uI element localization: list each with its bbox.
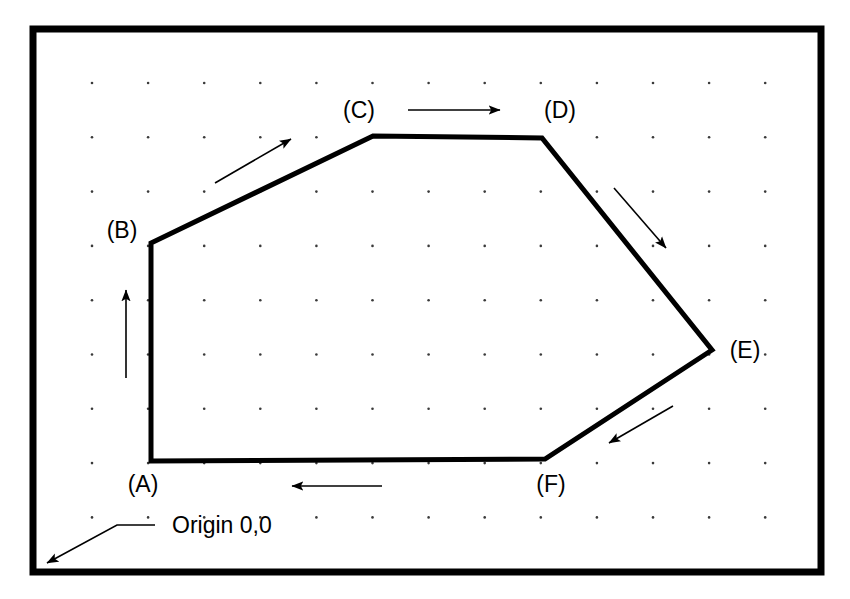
grid-dot — [483, 190, 486, 193]
grid-dot — [540, 516, 543, 519]
grid-dot — [596, 299, 599, 302]
grid-dot — [764, 462, 767, 465]
grid-dot — [764, 353, 767, 356]
grid-dot — [764, 408, 767, 411]
grid-dot — [540, 190, 543, 193]
grid-dot — [259, 299, 262, 302]
grid-dot — [91, 462, 94, 465]
diagram-canvas: (A)(B)(C)(D)(E)(F) Origin 0,0 — [0, 0, 850, 599]
grid-dot — [203, 299, 206, 302]
grid-dot — [764, 516, 767, 519]
grid-dot — [203, 136, 206, 139]
vertex-label-d: (D) — [544, 97, 576, 123]
grid-dot — [483, 516, 486, 519]
grid-dot — [764, 299, 767, 302]
grid-dot — [596, 353, 599, 356]
grid-dot — [764, 136, 767, 139]
grid-dot — [483, 462, 486, 465]
grid-dot — [203, 353, 206, 356]
grid-dot — [259, 245, 262, 248]
grid-dot — [427, 516, 430, 519]
grid-dot — [596, 408, 599, 411]
grid-dot — [596, 516, 599, 519]
grid-dot — [708, 245, 711, 248]
vertex-label-c: (C) — [343, 97, 375, 123]
grid-dot — [483, 408, 486, 411]
grid-dot — [708, 82, 711, 85]
grid-dot — [540, 462, 543, 465]
grid-dot — [203, 245, 206, 248]
grid-dot — [91, 353, 94, 356]
grid-dot — [203, 82, 206, 85]
grid-dot — [147, 516, 150, 519]
grid-dot — [708, 516, 711, 519]
grid-dot — [259, 82, 262, 85]
grid-dot — [596, 136, 599, 139]
grid-dot — [540, 299, 543, 302]
grid-dot — [596, 82, 599, 85]
grid-dot — [483, 245, 486, 248]
grid-dot — [91, 190, 94, 193]
polygon-path-diagram: (A)(B)(C)(D)(E)(F) Origin 0,0 — [0, 0, 850, 599]
vertex-label-b: (B) — [107, 217, 138, 243]
grid-dot — [147, 136, 150, 139]
grid-dot — [371, 82, 374, 85]
grid-dot — [427, 190, 430, 193]
grid-dot — [764, 245, 767, 248]
grid-dot — [371, 353, 374, 356]
canvas-background — [0, 0, 850, 599]
grid-dot — [652, 299, 655, 302]
grid-dot — [483, 82, 486, 85]
grid-dot — [91, 299, 94, 302]
grid-dot — [427, 462, 430, 465]
grid-dot — [315, 190, 318, 193]
grid-dot — [483, 299, 486, 302]
grid-dot — [427, 408, 430, 411]
grid-dot — [764, 82, 767, 85]
grid-dot — [315, 516, 318, 519]
grid-dot — [764, 190, 767, 193]
grid-dot — [371, 408, 374, 411]
grid-dot — [708, 190, 711, 193]
grid-dot — [708, 462, 711, 465]
grid-dot — [259, 353, 262, 356]
grid-dot — [540, 82, 543, 85]
grid-dot — [315, 136, 318, 139]
grid-dot — [427, 245, 430, 248]
grid-dot — [427, 299, 430, 302]
grid-dot — [91, 136, 94, 139]
grid-dot — [371, 299, 374, 302]
grid-dot — [652, 136, 655, 139]
grid-dot — [540, 408, 543, 411]
grid-dot — [540, 245, 543, 248]
grid-dot — [259, 408, 262, 411]
grid-dot — [652, 190, 655, 193]
grid-dot — [652, 408, 655, 411]
grid-dot — [483, 353, 486, 356]
grid-dot — [371, 245, 374, 248]
grid-dot — [427, 353, 430, 356]
vertex-label-a: (A) — [128, 471, 159, 497]
vertex-label-e: (E) — [730, 337, 761, 363]
grid-dot — [315, 82, 318, 85]
grid-dot — [259, 136, 262, 139]
grid-dot — [652, 82, 655, 85]
grid-dot — [371, 516, 374, 519]
grid-dot — [708, 408, 711, 411]
grid-dot — [147, 190, 150, 193]
grid-dot — [708, 299, 711, 302]
grid-dot — [91, 245, 94, 248]
grid-dot — [147, 82, 150, 85]
grid-dot — [596, 462, 599, 465]
grid-dot — [203, 408, 206, 411]
grid-dot — [596, 190, 599, 193]
vertex-label-f: (F) — [536, 471, 565, 497]
origin-label: Origin 0,0 — [172, 512, 272, 538]
grid-dot — [652, 245, 655, 248]
grid-dot — [427, 82, 430, 85]
grid-dot — [652, 353, 655, 356]
grid-dot — [652, 462, 655, 465]
grid-dot — [371, 190, 374, 193]
grid-dot — [315, 299, 318, 302]
grid-dot — [203, 190, 206, 193]
